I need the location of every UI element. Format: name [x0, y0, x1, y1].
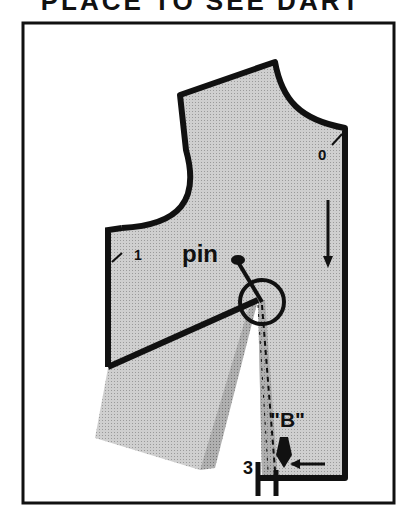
- pin-head-icon: [231, 255, 245, 265]
- label-point-3: 3: [243, 458, 253, 478]
- label-point-1: 1: [134, 247, 142, 263]
- pattern-diagram: 0 1 pin "B" 3: [0, 0, 402, 521]
- label-pin: pin: [182, 240, 218, 267]
- label-dart-b: "B": [270, 408, 305, 431]
- label-point-0: 0: [318, 146, 326, 163]
